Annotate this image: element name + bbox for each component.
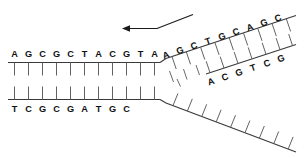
base-letter: G	[53, 49, 60, 59]
base-letter: T	[138, 49, 144, 59]
base-letter: A	[11, 49, 18, 59]
base-letter: C	[39, 49, 46, 59]
base-letter: C	[262, 57, 272, 69]
base-letter: A	[151, 49, 158, 59]
lower-template-rungs	[173, 94, 293, 150]
bottom-parental-strand	[8, 87, 160, 100]
replication-fork-junction-dashes	[170, 65, 200, 87]
base-letter: C	[53, 104, 60, 114]
top-parental-strand	[8, 63, 160, 76]
dna-replication-fork-figure: A G C G C T A C G T A T C G C G A T G C …	[0, 0, 305, 158]
lower-template-strand	[160, 94, 296, 153]
base-letter: T	[82, 49, 88, 59]
base-letter: T	[12, 104, 18, 114]
base-letter: G	[123, 49, 130, 59]
base-letter: G	[276, 53, 286, 65]
base-letter: C	[123, 104, 130, 114]
base-letter: A	[95, 49, 102, 59]
dna-diagram-canvas: A G C G C T A C G T A T C G C G A T G C …	[0, 0, 305, 158]
bottom-parental-strand-letters: T C G C G A T G C	[12, 104, 130, 114]
arrow-head-left	[122, 25, 130, 31]
base-letter: C	[109, 49, 116, 59]
base-letter: T	[249, 62, 258, 73]
top-parental-strand-letters: A G C G C T A C G T A	[11, 49, 158, 59]
base-letter: C	[25, 104, 32, 114]
top-parental-rungs	[15, 63, 155, 76]
base-letter: C	[67, 49, 74, 59]
lower-template-backbone	[160, 100, 296, 153]
base-letter: A	[206, 76, 216, 88]
arrow-shaft	[127, 15, 193, 29]
base-letter: A	[161, 49, 171, 61]
base-letter: T	[96, 104, 102, 114]
base-letter: C	[220, 71, 230, 83]
base-letter: G	[109, 104, 116, 114]
base-letter: G	[25, 49, 32, 59]
base-letter: G	[234, 67, 244, 79]
base-letter: G	[39, 104, 46, 114]
base-letter: G	[67, 104, 74, 114]
base-letter: A	[81, 104, 88, 114]
bottom-parental-rungs	[15, 87, 155, 100]
replication-direction-arrow	[122, 15, 193, 32]
